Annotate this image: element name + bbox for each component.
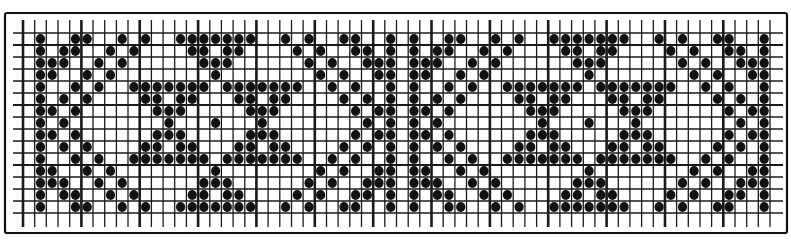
stitch-dot — [246, 106, 255, 116]
stitch-dot — [106, 190, 115, 200]
stitch-dot — [328, 58, 337, 68]
stitch-dot — [176, 154, 185, 164]
stitch-dot — [550, 202, 559, 212]
stitch-dot — [631, 154, 640, 164]
stitch-dot — [223, 202, 232, 212]
stitch-dot — [433, 58, 442, 68]
stitch-dot — [71, 82, 80, 92]
stitch-dot — [36, 82, 45, 92]
stitch-dot — [409, 58, 418, 68]
stitch-dot — [328, 154, 337, 164]
stitch-dot — [760, 94, 769, 104]
stitch-dot — [748, 166, 757, 176]
stitch-dot — [223, 46, 232, 56]
stitch-dot — [374, 70, 383, 80]
stitch-dot — [386, 94, 395, 104]
stitch-dot — [351, 154, 360, 164]
stitch-dot — [94, 58, 103, 68]
stitch-dot — [573, 178, 582, 188]
stitch-dot — [479, 166, 488, 176]
stitch-dot — [479, 70, 488, 80]
stitch-dot — [503, 190, 512, 200]
stitch-dot — [83, 202, 92, 212]
stitch-dot — [596, 202, 605, 212]
stitch-dot — [643, 82, 652, 92]
stitch-dot — [188, 190, 197, 200]
stitch-dot — [141, 142, 150, 152]
stitch-dot — [269, 142, 278, 152]
stitch-dot — [129, 82, 138, 92]
stitch-dot — [725, 34, 734, 44]
stitch-dot — [386, 178, 395, 188]
stitch-dot — [374, 166, 383, 176]
stitch-dot — [36, 190, 45, 200]
stitch-dot — [223, 58, 232, 68]
stitch-dot — [678, 34, 687, 44]
stitch-dot — [596, 190, 605, 200]
stitch-dot — [188, 142, 197, 152]
stitch-dot — [538, 130, 547, 140]
stitch-dot — [188, 82, 197, 92]
stitch-dot — [36, 154, 45, 164]
stitch-dot — [550, 106, 559, 116]
stitch-dot — [351, 82, 360, 92]
stitch-dot — [281, 154, 290, 164]
stitch-dot — [725, 190, 734, 200]
stitch-dot — [608, 82, 617, 92]
stitch-dot — [678, 58, 687, 68]
stitch-dot — [36, 178, 45, 188]
stitch-dot — [655, 202, 664, 212]
stitch-dot — [585, 202, 594, 212]
stitch-dot — [608, 34, 617, 44]
stitch-dot — [456, 202, 465, 212]
stitch-dot — [386, 82, 395, 92]
stitch-dot — [421, 58, 430, 68]
stitch-dot — [655, 82, 664, 92]
stitch-dot — [71, 202, 80, 212]
stitch-dot — [736, 46, 745, 56]
stitch-dot — [386, 142, 395, 152]
stitch-dot — [538, 82, 547, 92]
stitch-dot — [456, 34, 465, 44]
stitch-dot — [760, 118, 769, 128]
stitch-dot — [269, 130, 278, 140]
stitch-dot — [421, 178, 430, 188]
stitch-dot — [736, 94, 745, 104]
stitch-dot — [363, 58, 372, 68]
stitch-dot — [444, 202, 453, 212]
stitch-dot — [211, 58, 220, 68]
stitch-dot — [36, 142, 45, 152]
stitch-dot — [655, 154, 664, 164]
stitch-dot — [643, 106, 652, 116]
stitch-dot — [725, 154, 734, 164]
stitch-dot — [585, 70, 594, 80]
stitch-dot — [736, 58, 745, 68]
stitch-dot — [573, 154, 582, 164]
stitch-dot — [561, 154, 570, 164]
stitch-dot — [620, 82, 629, 92]
stitch-dot — [550, 34, 559, 44]
stitch-dot — [456, 142, 465, 152]
stitch-dot — [59, 142, 68, 152]
stitch-dot — [94, 154, 103, 164]
stitch-dot — [561, 82, 570, 92]
stitch-dot — [199, 202, 208, 212]
stitch-dot — [246, 130, 255, 140]
stitch-dot — [409, 46, 418, 56]
stitch-dot — [83, 166, 92, 176]
stitch-dot — [736, 190, 745, 200]
stitch-dot — [211, 34, 220, 44]
stitch-dot — [503, 46, 512, 56]
stitch-dot — [48, 58, 57, 68]
stitch-dot — [328, 82, 337, 92]
stitch-dot — [258, 130, 267, 140]
stitch-dot — [421, 70, 430, 80]
stitch-dot — [701, 58, 710, 68]
stitch-dot — [409, 82, 418, 92]
stitch-dot — [444, 34, 453, 44]
stitch-dot — [176, 82, 185, 92]
stitch-dot — [36, 70, 45, 80]
stitch-dot — [409, 34, 418, 44]
stitch-dot — [725, 46, 734, 56]
stitch-dot — [211, 70, 220, 80]
